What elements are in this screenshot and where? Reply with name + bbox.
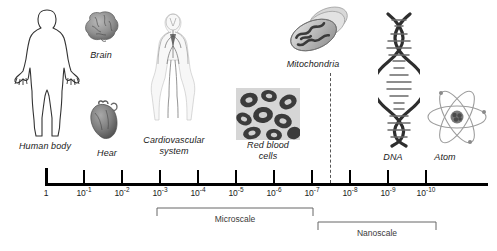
micro-nano-divider [330,73,331,183]
caption-heart: Hear [90,148,124,159]
microscale-label: Microscale [180,214,290,224]
red-blood-cells-icon [236,88,300,140]
caption-human-body: Human body [14,141,76,152]
caption-cardiovascular: Cardiovascular system [141,135,207,156]
length-scale-diagram: Human body Brain Hear Cardiovascular sys… [0,0,497,251]
axis-label-1e-7: 10-7 [295,188,329,198]
axis-tick-1e-10 [425,170,427,184]
brain-icon [82,10,120,44]
axis-tick-1e-6 [273,170,275,184]
nanoscale-label: Nanoscale [322,228,432,238]
axis-tick-1e-2 [121,170,123,184]
axis-label-1e-3: 10-3 [143,188,177,198]
axis-label-1e-8: 10-8 [333,188,367,198]
axis-tick-1e-1 [83,170,85,184]
axis-label-1e-10: 10-10 [409,188,443,198]
axis-tick-1e-8 [349,170,351,184]
atom-icon [424,84,490,150]
axis-label-1e-6: 10-6 [257,188,291,198]
cardiovascular-system-icon [147,8,199,130]
axis-tick-1e-5 [235,170,237,184]
caption-mitochondria: Mitochondria [278,59,348,70]
heart-icon [86,99,124,143]
caption-atom: Atom [428,152,462,163]
axis-tick-1e-7 [311,170,313,184]
axis-tick-1e-9 [387,170,389,184]
caption-dna: DNA [376,152,410,163]
axis-label-1e-1: 10-1 [67,188,101,198]
dna-icon [378,10,420,148]
caption-red-blood-cells: Red blood cells [240,140,296,161]
human-body-icon [12,6,82,138]
axis-tick-1 [45,168,48,184]
mitochondria-icon [286,6,356,58]
axis-tick-1e-4 [197,170,199,184]
caption-brain: Brain [76,50,126,61]
axis-label-1e-2: 10-2 [105,188,139,198]
axis-label-1e-5: 10-5 [219,188,253,198]
axis-tick-1e-3 [159,170,161,184]
axis-label-1: 1 [29,188,63,198]
scale-axis-line [45,183,488,186]
axis-label-1e-4: 10-4 [181,188,215,198]
axis-label-1e-9: 10-9 [371,188,405,198]
